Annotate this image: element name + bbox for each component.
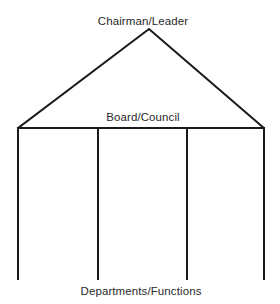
crossbeam-label: Board/Council	[106, 111, 180, 123]
org-structure-diagram	[0, 0, 280, 304]
base-label: Departments/Functions	[81, 285, 202, 297]
apex-label: Chairman/Leader	[98, 15, 188, 27]
